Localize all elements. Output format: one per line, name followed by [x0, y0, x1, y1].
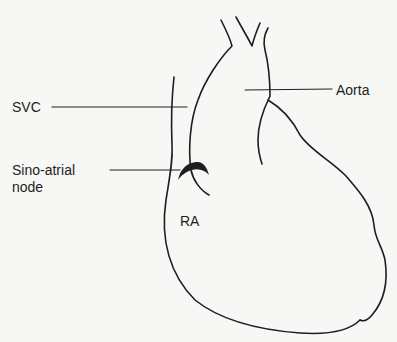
vessel-v	[236, 17, 260, 46]
sa-node-label-line1: Sino-atrial	[12, 162, 75, 178]
svc-label: SVC	[12, 99, 41, 115]
sa-node-label-line2: node	[12, 179, 43, 195]
heart-right-contour	[268, 100, 386, 321]
aorta-right-wall	[258, 28, 270, 164]
ra-label: RA	[180, 213, 199, 229]
aorta-leader-line	[245, 89, 332, 90]
aorta-label: Aorta	[336, 82, 369, 98]
heart-diagram: SVC Aorta Sino-atrial node RA	[0, 0, 397, 342]
